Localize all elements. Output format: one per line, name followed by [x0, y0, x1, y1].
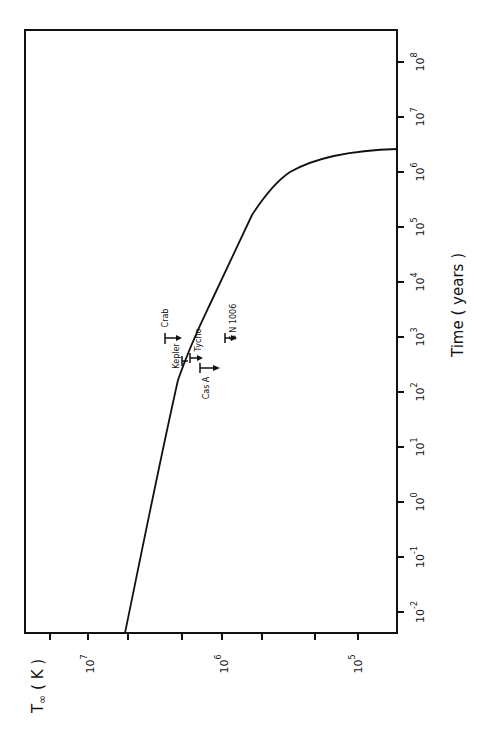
temperature-axis: [50, 633, 358, 640]
tick-label-1e3: 103: [410, 327, 427, 346]
time-tick-labels: 108 107 106 105 104 103 102 101 100 10-1…: [410, 52, 427, 623]
label-kepler: Kepler: [172, 343, 181, 369]
tick-label-1e6: 106: [410, 162, 427, 181]
plot-frame: [25, 30, 397, 633]
observation-crab: [165, 333, 182, 344]
chart: 108 107 106 105 104 103 102 101 100 10-1…: [0, 0, 480, 744]
tick-label-1e7: 107: [410, 107, 427, 126]
tick-label-1e1: 101: [410, 437, 427, 456]
cooling-curve: [125, 149, 397, 633]
temperature-axis-title: T∞ ( K ): [29, 659, 49, 714]
tick-label-1e-1: 10-1: [410, 546, 427, 568]
observation-cas-a: [200, 363, 220, 373]
label-cas-a: Cas A: [202, 376, 211, 399]
time-axis: [397, 62, 404, 612]
tick-label-1e4: 104: [410, 272, 427, 291]
tick-label-1e-2: 10-2: [410, 601, 427, 623]
observation-tycho: [190, 353, 203, 363]
tick-label-1e0: 100: [410, 492, 427, 511]
label-tycho: Tycho: [194, 329, 203, 353]
temp-tick-label-1e7: 107: [80, 654, 97, 673]
temp-tick-label-1e5: 105: [348, 654, 365, 673]
tick-label-1e2: 102: [410, 382, 427, 401]
label-crab: Crab: [161, 309, 170, 328]
temp-tick-label-1e6: 106: [214, 654, 231, 673]
tick-label-1e8: 108: [410, 52, 427, 71]
time-axis-title: Time ( years ): [449, 253, 467, 358]
svg-text:T∞ ( K ): T∞ ( K ): [29, 659, 49, 714]
tick-label-1e5: 105: [410, 217, 427, 236]
label-sn1006: S N 1006: [229, 304, 238, 341]
